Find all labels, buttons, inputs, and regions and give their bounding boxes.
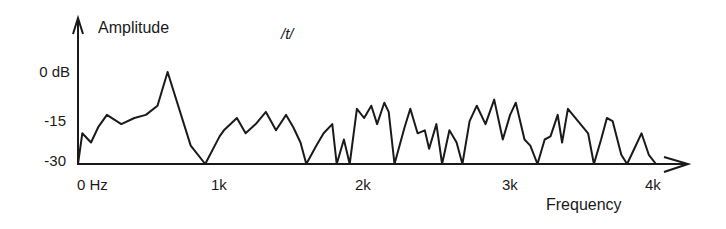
x-tick-2k: 2k [355,176,371,193]
y-tick-minus30: -30 [6,152,66,169]
x-tick-0hz: 0 Hz [77,176,108,193]
spectrum-line [78,72,656,164]
x-tick-3k: 3k [502,176,518,193]
x-tick-1k: 1k [211,176,227,193]
y-tick-minus15: -15 [6,112,66,129]
x-tick-4k: 4k [645,176,661,193]
y-tick-0db: 0 dB [10,63,70,80]
y-axis-title: Amplitude [98,19,169,37]
phoneme-label: /t/ [281,25,294,42]
x-axis-title: Frequency [546,196,622,214]
